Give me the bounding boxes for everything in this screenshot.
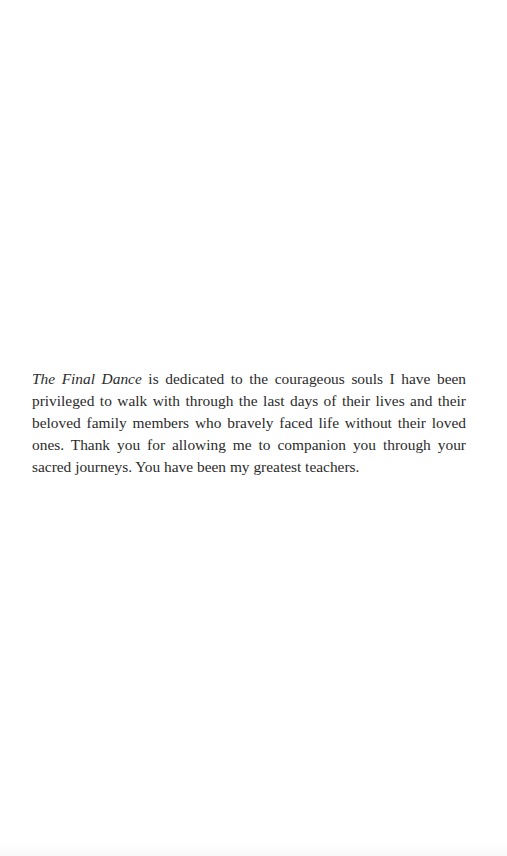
- book-page: The Final Dance is dedicated to the cour…: [0, 0, 507, 856]
- dedication-paragraph: The Final Dance is dedicated to the cour…: [32, 368, 466, 478]
- book-title: The Final Dance: [32, 370, 142, 387]
- page-bleed-through: [0, 842, 507, 856]
